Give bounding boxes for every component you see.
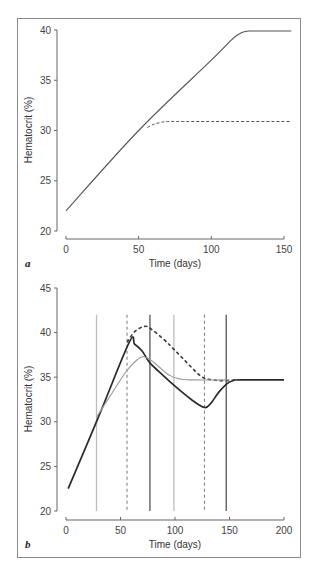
panel-a-y-axis: 2025303540 — [40, 25, 57, 237]
panel-a-x-axis-title: Time (days) — [149, 258, 201, 269]
series-solid — [66, 31, 291, 211]
series-dashed — [147, 121, 291, 127]
y-tick-label: 25 — [40, 175, 52, 186]
y-tick-label: 30 — [40, 125, 52, 136]
figure-border — [18, 19, 301, 558]
y-tick-label: 40 — [40, 25, 52, 36]
figure: 2025303540 050100150 Hematocrit (%) Time… — [0, 0, 315, 570]
panel-b: 202530354045 050100150200 Hematocrit (%)… — [23, 283, 293, 551]
panel-a-x-axis: 050100150 — [63, 236, 293, 255]
series-gray-dotted — [97, 357, 230, 418]
panel-a-series — [66, 31, 291, 211]
y-tick-label: 20 — [40, 506, 52, 517]
series-black-solid — [68, 337, 284, 489]
x-tick-label: 50 — [133, 244, 145, 255]
x-tick-label: 100 — [167, 525, 184, 536]
panel-b-y-axis: 202530354045 — [40, 283, 57, 517]
panel-b-label: b — [25, 538, 31, 550]
y-tick-label: 20 — [40, 226, 52, 237]
x-tick-label: 50 — [115, 525, 127, 536]
panel-a: 2025303540 050100150 Hematocrit (%) Time… — [23, 25, 293, 270]
y-tick-label: 25 — [40, 461, 52, 472]
x-tick-label: 0 — [63, 525, 69, 536]
x-tick-label: 150 — [221, 525, 238, 536]
panel-b-vertical-markers — [97, 315, 227, 511]
panel-b-x-axis: 050100150200 — [63, 517, 293, 536]
y-tick-label: 35 — [40, 75, 52, 86]
y-tick-label: 40 — [40, 327, 52, 338]
x-tick-label: 150 — [276, 244, 293, 255]
y-tick-label: 30 — [40, 416, 52, 427]
panel-b-x-axis-title: Time (days) — [149, 539, 201, 550]
panel-b-series — [68, 326, 284, 488]
y-tick-label: 45 — [40, 283, 52, 294]
panel-b-y-axis-title: Hematocrit (%) — [23, 366, 34, 433]
panel-a-y-axis-title: Hematocrit (%) — [23, 97, 34, 164]
x-tick-label: 0 — [63, 244, 69, 255]
x-tick-label: 100 — [203, 244, 220, 255]
x-tick-label: 200 — [276, 525, 293, 536]
y-tick-label: 35 — [40, 372, 52, 383]
panel-a-label: a — [25, 257, 31, 269]
